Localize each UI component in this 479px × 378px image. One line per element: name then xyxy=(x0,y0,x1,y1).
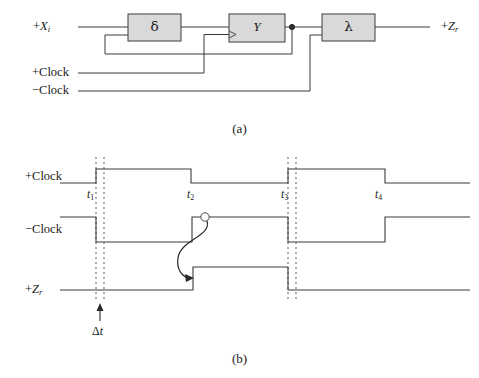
output-port-sign: + xyxy=(441,19,448,33)
delta-t-symbol: Δ xyxy=(92,324,100,338)
panel-a-plus-clock-label: +Clock xyxy=(32,66,69,79)
output-port-sub: r xyxy=(455,24,458,34)
time-marker-t2-sub: 2 xyxy=(190,193,194,202)
time-marker-t2: t2 xyxy=(187,189,194,202)
panel-b-plus-z-r-label: +Zr xyxy=(25,283,42,297)
figure-root: +Xi +Zr δ Y λ +Clock −Clock (a) +Clock −… xyxy=(0,0,479,378)
output-port-label: +Zr xyxy=(441,20,458,34)
figure-canvas xyxy=(0,0,479,378)
output-port-base: Z xyxy=(448,19,455,33)
delta-t-arrow-head-icon xyxy=(97,303,104,311)
delta-t-label: Δt xyxy=(92,325,103,337)
y-block-label: Y xyxy=(229,20,285,34)
panel-b-plus-clock-label: +Clock xyxy=(25,170,62,183)
time-marker-t1: t1 xyxy=(87,189,94,202)
panel-b-z-sign: + xyxy=(25,282,32,296)
time-marker-t1-sub: 1 xyxy=(90,193,94,202)
time-marker-t3: t3 xyxy=(281,189,288,202)
waveform-plus-z-r xyxy=(60,267,470,290)
panel-b-minus-clock-label: −Clock xyxy=(25,223,62,236)
time-marker-t3-sub: 3 xyxy=(284,193,288,202)
panel-b-z-base: Z xyxy=(32,282,39,296)
panel-a-minus-clock-label: −Clock xyxy=(32,84,69,97)
input-port-base: X xyxy=(40,19,48,33)
input-port-label: +Xi xyxy=(33,20,50,34)
waveform-minus-clock xyxy=(60,217,470,242)
panel-b-z-sub: r xyxy=(39,287,42,297)
panel-a-caption: (a) xyxy=(0,122,479,135)
delta-t-variable: t xyxy=(100,324,103,338)
lambda-block-label: λ xyxy=(322,20,375,34)
delta-block-label: δ xyxy=(128,20,181,34)
input-port-sub: i xyxy=(48,24,50,34)
minus-clock-rising-edge-marker xyxy=(201,213,209,221)
time-marker-t4: t4 xyxy=(375,189,382,202)
panel-b-caption: (b) xyxy=(0,352,479,365)
input-port-sign: + xyxy=(33,19,40,33)
time-marker-t4-sub: 4 xyxy=(378,193,382,202)
minus-clock-wire xyxy=(78,35,322,91)
waveform-plus-clock xyxy=(60,169,470,183)
